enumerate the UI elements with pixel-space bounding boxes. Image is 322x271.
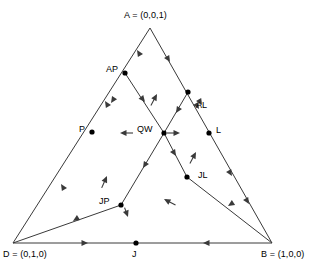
ternary-diagram-svg [0, 0, 322, 271]
arrow-JL-B [226, 200, 235, 209]
node-label-qw: QW [137, 124, 153, 134]
free-arrow-qw-right [167, 130, 180, 136]
arrow-QW-JP [140, 161, 149, 170]
vertex-label-b: B = (1,0,0) [261, 249, 304, 259]
arrow-D-B-right [203, 240, 210, 246]
node-label-al: AL [196, 100, 207, 110]
vertex-label-a: A = (0,0,1) [124, 10, 167, 20]
node-label-p: P [79, 124, 85, 134]
free-arrow-jp-down [122, 207, 131, 218]
free-arrow-down-left [163, 196, 177, 207]
diagram-canvas: A = (0,0,1)D = (0,1,0)B = (1,0,0)APALPQW… [0, 0, 322, 271]
arrow-D-B-left [82, 240, 89, 246]
node-point-l [206, 130, 211, 135]
free-arrow-up-right [187, 151, 198, 165]
free-arrow-up-mid [148, 93, 159, 107]
node-point-p [89, 129, 94, 134]
node-label-ap: AP [106, 64, 118, 74]
arrow-A-B-lower [226, 169, 234, 178]
arrow-QW-JL [170, 149, 179, 158]
node-label-l: L [216, 125, 221, 135]
edge-JL-B [187, 177, 272, 243]
free-arrows-layer [99, 93, 199, 218]
arrow-A-D-lower [58, 182, 67, 191]
node-label-jl: JL [198, 170, 208, 180]
edge-JP-D [13, 205, 121, 243]
node-point-j [133, 240, 138, 245]
node-point-ap [122, 70, 127, 75]
node-label-j: J [132, 249, 137, 259]
edges-layer [13, 28, 272, 243]
node-point-jl [184, 174, 189, 179]
node-point-al [185, 89, 190, 94]
arrow-AP-branch [108, 96, 117, 105]
edge-QW-JP [121, 133, 164, 205]
node-point-jp [118, 202, 123, 207]
arrow-A-B-upper [164, 55, 172, 64]
free-arrow-qw-left [120, 130, 133, 136]
vertex-label-d: D = (0,1,0) [3, 249, 47, 259]
edge-A-D [13, 28, 150, 243]
node-point-qw [161, 130, 166, 135]
node-label-jp: JP [99, 196, 110, 206]
edge-AL-QW [164, 92, 188, 133]
free-arrow-up-left [99, 175, 110, 189]
arrow-AL-QW [173, 106, 182, 115]
